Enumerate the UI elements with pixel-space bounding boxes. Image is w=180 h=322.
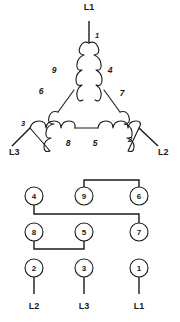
terminal-label: 4	[32, 192, 37, 201]
terminal-label-l2: L2	[29, 301, 40, 311]
motor-winding-figure: L1 L3 L2 1 3 2 9 4 6 7 8 5	[0, 0, 180, 322]
delta-label-l1: L1	[84, 2, 95, 12]
jumper-4-7	[34, 205, 139, 223]
delta-label-l2: L2	[158, 147, 169, 157]
terminal-label-l3: L3	[79, 301, 90, 311]
terminal-5[interactable]: 5	[75, 223, 93, 241]
terminal-label: 3	[82, 264, 87, 273]
delta-coil-label-6: 6	[39, 86, 44, 96]
terminal-6[interactable]: 6	[130, 187, 148, 205]
delta-coil-5	[98, 121, 140, 128]
delta-coil-label-8: 8	[66, 138, 71, 148]
terminal-row: 2 3 1	[25, 259, 148, 277]
delta-coil-9	[76, 42, 89, 101]
delta-terminal-1: 1	[95, 31, 99, 40]
terminal-9[interactable]: 9	[75, 187, 93, 205]
delta-link-4-7	[104, 90, 120, 112]
jumper-9-6	[84, 180, 139, 187]
terminal-label: 8	[32, 228, 37, 237]
terminal-label: 7	[137, 228, 142, 237]
terminal-2[interactable]: 2	[25, 259, 43, 277]
delta-coil-4	[89, 42, 102, 101]
terminal-row: 8 5 7	[25, 223, 148, 241]
delta-terminal-3: 3	[21, 119, 26, 128]
delta-coil-label-9: 9	[52, 65, 57, 75]
delta-terminal-2: 2	[127, 135, 133, 144]
delta-coil-label-4: 4	[107, 65, 113, 75]
delta-link-9-6	[58, 90, 74, 112]
terminal-4[interactable]: 4	[25, 187, 43, 205]
delta-coil-label-5: 5	[93, 138, 98, 148]
delta-coil-label-7: 7	[120, 88, 126, 98]
delta-l3-lead	[12, 128, 30, 146]
terminal-label: 9	[82, 192, 87, 201]
terminal-1[interactable]: 1	[130, 259, 148, 277]
delta-l2-lead	[139, 128, 158, 146]
terminal-label-l1: L1	[134, 301, 145, 311]
delta-label-l3: L3	[9, 147, 20, 157]
terminal-board-diagram: 4 9 6 8 5	[25, 180, 148, 311]
terminal-8[interactable]: 8	[25, 223, 43, 241]
terminal-label: 6	[137, 192, 142, 201]
figure-canvas: L1 L3 L2 1 3 2 9 4 6 7 8 5	[0, 0, 180, 322]
jumper-8-5	[34, 241, 84, 249]
delta-coil-7	[120, 112, 139, 152]
terminal-row: 4 9 6	[25, 187, 148, 205]
terminal-label: 5	[82, 228, 87, 237]
terminal-7[interactable]: 7	[130, 223, 148, 241]
delta-winding-diagram: L1 L3 L2 1 3 2 9 4 6 7 8 5	[9, 2, 169, 157]
terminal-label: 1	[137, 264, 142, 273]
terminal-3[interactable]: 3	[75, 259, 93, 277]
delta-coil-6	[30, 112, 58, 152]
terminal-label: 2	[32, 264, 37, 273]
